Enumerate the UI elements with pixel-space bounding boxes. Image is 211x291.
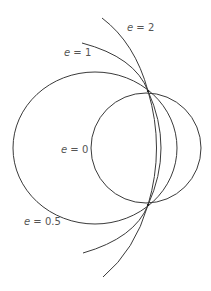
label-e1-value: 1 [85,47,91,58]
label-e1: e = 1 [64,48,91,58]
label-e0-value: 0 [82,144,88,155]
parabola-curve-e1 [82,43,161,253]
conic-sections-diagram [0,0,211,291]
label-e05: e = 0.5 [24,217,61,227]
label-e0-eq: = [67,144,82,155]
hyperbola-curve-e2 [102,18,157,277]
label-e1-eq: = [70,47,85,58]
label-e0: e = 0 [61,145,88,155]
label-e2-eq: = [133,22,148,33]
top-intersection-point [147,90,149,92]
bottom-intersection-point [147,204,149,206]
ellipse-curve-e05 [13,72,177,224]
label-e2-value: 2 [148,22,154,33]
label-e05-value: 0.5 [45,216,61,227]
label-e05-eq: = [30,216,45,227]
label-e2: e = 2 [127,23,154,33]
circle-curve-e0 [91,93,201,203]
